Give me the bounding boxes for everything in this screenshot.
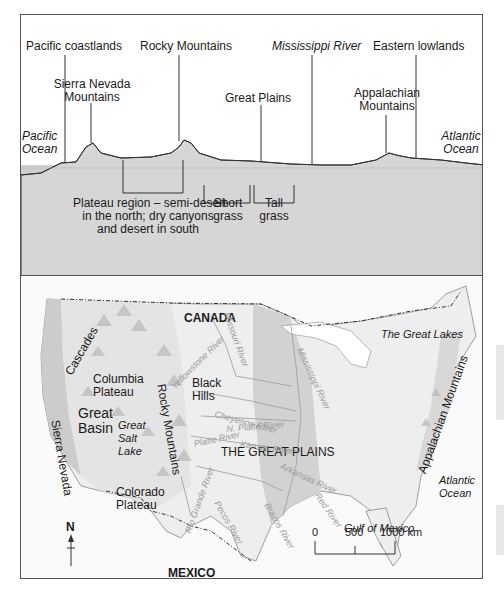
scale-tick-0: 0 — [312, 526, 318, 539]
label-great-basin: Great Basin — [78, 406, 113, 436]
label-great-plains: Great Plains — [225, 92, 291, 105]
label-plateau-region: Plateau region – semi-desert in the nort… — [73, 197, 223, 236]
label-atlantic-ocean-map: Atlantic Ocean — [439, 474, 475, 500]
label-great-salt-lake: Great Salt Lake — [118, 419, 146, 458]
label-mexico: MEXICO — [168, 567, 215, 579]
scale-tick-500: 500 — [345, 526, 363, 539]
physical-map: CANADA MEXICO The Great Lakes Cascades C… — [20, 275, 483, 579]
label-mississippi-river: Mississippi River — [272, 40, 361, 53]
label-sierra-nevada-mountains: Sierra Nevada Mountains — [47, 78, 137, 104]
label-rocky-mountains: Rocky Mountains — [140, 40, 232, 53]
label-appalachian-mountains: Appalachian Mountains — [347, 87, 427, 113]
label-great-lakes: The Great Lakes — [381, 328, 463, 341]
profile-graphic — [21, 15, 483, 276]
label-pacific-coastlands: Pacific coastlands — [26, 40, 122, 53]
label-pacific-ocean: Pacific Ocean — [22, 130, 57, 156]
compass-north-label: N — [66, 521, 75, 534]
label-black-hills: Black Hills — [192, 377, 221, 403]
label-colorado-plateau: Colorado Plateau — [116, 486, 165, 512]
label-atlantic-ocean: Atlantic Ocean — [439, 130, 483, 156]
label-eastern-lowlands: Eastern lowlands — [373, 40, 464, 53]
cross-section-profile: Pacific coastlands Rocky Mountains Missi… — [20, 14, 483, 276]
label-tall-grass: Tall grass — [254, 197, 294, 223]
page-edge-fragment — [496, 505, 504, 555]
label-short-grass: Short grass — [207, 197, 249, 223]
label-columbia-plateau: Columbia Plateau — [93, 373, 144, 399]
scale-tick-1000: 1000 km — [380, 526, 422, 539]
page-edge-fragment — [496, 345, 504, 420]
